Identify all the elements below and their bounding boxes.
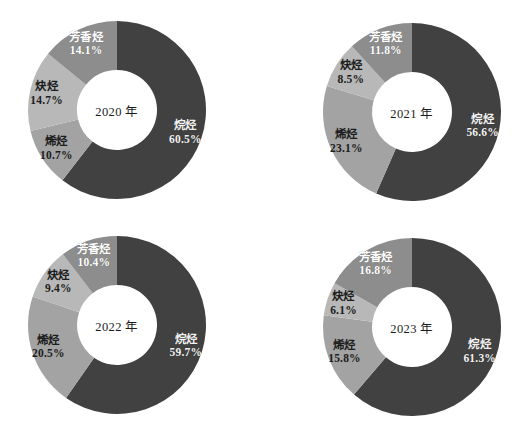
donut-ring-0 — [2, 3, 232, 218]
donut-chart-1: 烷烃56.6%烯烃23.1%炔烃8.5%芳香烃11.8%2021 年 — [297, 5, 524, 220]
donut-chart-0: 烷烃60.5%烯烃10.7%炔烃14.7%芳香烃14.1%2020 年 — [2, 3, 232, 218]
donut-ring-2 — [2, 218, 232, 423]
donut-ring-1 — [297, 5, 524, 220]
donut-chart-3: 烷烃61.3%烯烃15.8%炔烃6.1%芳香烃16.8%2023 年 — [297, 220, 524, 423]
donut-chart-2: 烷烃59.7%烯烃20.5%炔烃9.4%芳香烃10.4%2022 年 — [2, 218, 232, 423]
donut-ring-3 — [297, 220, 524, 423]
donut-chart-grid: 烷烃60.5%烯烃10.7%炔烃14.7%芳香烃14.1%2020 年烷烃56.… — [0, 0, 524, 423]
